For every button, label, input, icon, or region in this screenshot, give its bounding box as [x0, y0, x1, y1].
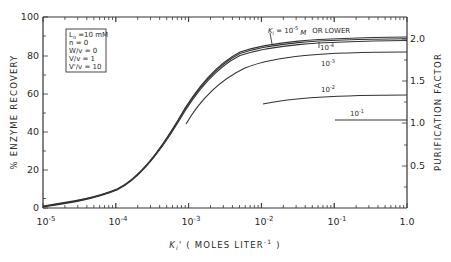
x-tick-labels: 10-5 10-4 10-3 10-2 10-1 1.0: [36, 215, 414, 227]
condition-v-prime-v: V'/v = 10: [69, 63, 101, 71]
condition-n: n = 0: [69, 39, 88, 47]
label-ki-1e-2: 10-2: [321, 84, 335, 94]
right-y-tick-1-5: 1.5: [410, 75, 425, 86]
y-tick-40: 40: [27, 126, 39, 137]
y-axis-ticks: [43, 17, 48, 208]
y-tick-100: 100: [21, 11, 39, 22]
x-tick-1e-4: 10-4: [108, 215, 128, 227]
label-ki-1e-3: 10-3: [321, 58, 335, 68]
right-y-tick-1-0: 1.0: [410, 117, 425, 128]
curve-ki-1e-2: [263, 95, 407, 104]
right-y-tick-labels: 0.5 1.0 1.5 2.0: [410, 33, 425, 171]
x-tick-1: 1.0: [399, 216, 414, 227]
y-tick-0: 0: [33, 202, 39, 213]
x-tick-1e-1: 10-1: [327, 215, 346, 227]
right-y-tick-0-5: 0.5: [410, 160, 425, 171]
y-axis-title: % ENZYME RECOVERY: [9, 55, 19, 170]
x-tick-1e-2: 10-2: [254, 215, 273, 227]
x-tick-1e-3: 10-3: [181, 215, 200, 227]
conditions-box: Lo =10 mM n = 0 W/v = 0 V/v = 1 V'/v = 1…: [66, 29, 108, 72]
curve-labels: Ki = 10-5MOR LOWER 10-4 10-3 10-2 10-1: [268, 25, 364, 118]
condition-vv: V/v = 1: [69, 55, 95, 63]
y-tick-20: 20: [27, 164, 39, 175]
enzyme-recovery-chart: 0 20 40 60 80 100 0.5 1.0 1.5 2.0 10-5 1…: [0, 0, 451, 262]
x-axis-title: Ki' ( MOLES LITER-1 ): [169, 238, 280, 251]
right-y-axis-title: PURIFICATION FACTOR: [433, 53, 443, 171]
right-y-axis-ticks: [402, 39, 407, 187]
label-ki-1e-4: 10-4: [320, 42, 334, 52]
right-y-tick-2-0: 2.0: [410, 33, 425, 44]
label-ki-1e-5: Ki = 10-5MOR LOWER: [268, 25, 350, 37]
curve-ki-1e-3: [186, 52, 407, 124]
y-tick-labels: 0 20 40 60 80 100: [21, 11, 39, 213]
condition-wv: W/v = 0: [69, 47, 97, 55]
y-tick-60: 60: [27, 88, 39, 99]
y-tick-80: 80: [27, 50, 39, 61]
x-tick-1e-5: 10-5: [36, 215, 55, 227]
label-ki-1e-1: 10-1: [350, 108, 364, 118]
